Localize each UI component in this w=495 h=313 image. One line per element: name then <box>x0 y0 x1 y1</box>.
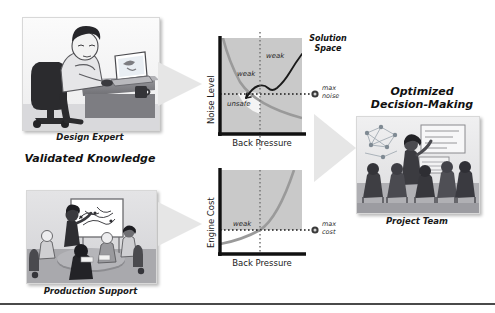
optimized-line1: Optimized <box>390 85 453 98</box>
max-cost-marker-label: max cost <box>322 221 336 236</box>
design-expert-photo-card <box>22 17 160 131</box>
validated-knowledge-heading: Validated Knowledge <box>22 152 158 165</box>
design-expert-caption: Design Expert <box>22 132 158 142</box>
cost-zone-weak: weak <box>233 220 251 228</box>
solution-space-callout: Solution Space <box>300 34 356 53</box>
noise-zone-unsafe: unsafe <box>227 100 251 108</box>
cost-chart-svg <box>198 168 328 272</box>
max-noise-line2: noise <box>322 92 339 100</box>
cost-chart-xlabel: Back Pressure <box>212 258 312 268</box>
project-team-illustration <box>357 117 479 213</box>
cost-chart <box>198 168 328 272</box>
noise-chart-xlabel: Back Pressure <box>212 138 312 148</box>
cost-chart-ylabel: Engine Cost <box>206 197 216 248</box>
optimized-decision-making-heading: Optimized Decision-Making <box>356 85 488 111</box>
noise-zone-weak-upper: weak <box>266 52 284 60</box>
production-support-photo-card <box>26 190 157 284</box>
person-at-desk-with-laptop-icon <box>23 18 159 130</box>
production-support-caption: Production Support <box>26 286 155 296</box>
team-presentation-meeting-icon <box>357 117 479 213</box>
footer-divider <box>0 303 495 305</box>
production-support-illustration <box>27 191 156 283</box>
design-expert-illustration <box>23 18 159 130</box>
optimized-line2: Decision-Making <box>371 98 473 111</box>
solution-space-line1: Solution <box>309 34 346 43</box>
solution-space-line2: Space <box>314 44 341 53</box>
project-team-photo-card <box>356 116 480 214</box>
noise-zone-weak-lower: weak <box>237 70 255 78</box>
max-noise-marker-label: max noise <box>322 85 339 100</box>
project-team-caption: Project Team <box>356 216 478 226</box>
team-meeting-whiteboard-icon <box>27 191 156 283</box>
noise-chart-ylabel: Noise Level <box>206 75 216 124</box>
max-cost-line2: cost <box>322 228 336 236</box>
